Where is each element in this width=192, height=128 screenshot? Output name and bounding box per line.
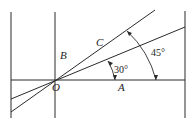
- label-a: A: [117, 81, 125, 93]
- label-o: O: [52, 81, 60, 93]
- geometry-diagram: O A B C 30° 45°: [0, 0, 192, 128]
- arrowhead-30-bottom: [113, 75, 117, 80]
- angle-label-30: 30°: [114, 64, 128, 75]
- arrowhead-30-top: [108, 61, 113, 66]
- label-b: B: [60, 49, 67, 61]
- label-c: C: [96, 36, 104, 48]
- arrowhead-45-bottom: [154, 75, 158, 80]
- angle-label-45: 45°: [151, 47, 165, 58]
- line-oc-45-degree: [11, 10, 155, 112]
